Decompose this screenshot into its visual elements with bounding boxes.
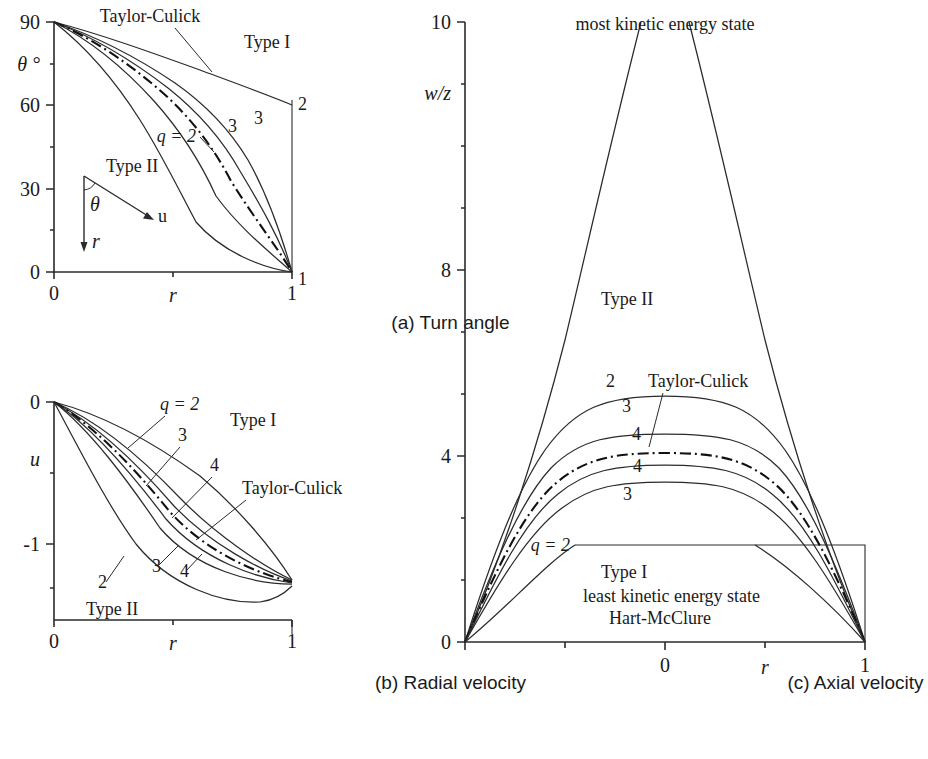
- panel-a-label-edge-1: 1: [298, 269, 307, 289]
- panel-b-label-type-1: Type I: [230, 410, 276, 430]
- panel-c-label-most-kinetic: most kinetic energy state: [575, 14, 754, 34]
- panel-a-label-3-upper: 3: [254, 108, 263, 128]
- panel-a-ylabel: θ °: [17, 53, 40, 75]
- panel-b-xtick-1: 1: [287, 630, 297, 652]
- panel-c-leader-tc: [649, 393, 663, 447]
- curve-taylor-culick: [54, 22, 292, 272]
- panel-a-xlabel: r: [169, 284, 177, 306]
- panel-b-label-q-eq-2: q = 2: [160, 394, 199, 414]
- panel-c-label-taylor-culick: Taylor-Culick: [648, 371, 748, 391]
- panel-b-label-type-2: Type II: [86, 599, 138, 619]
- inset-label-theta: θ: [90, 193, 100, 215]
- panel-c-label-q-eq-2: q = 2: [531, 535, 570, 555]
- inset-angle-arc: [84, 183, 95, 190]
- panel-a-label-3-lower: 3: [228, 116, 237, 136]
- panel-a-ytick-90: 90: [20, 11, 40, 33]
- curve-q2-type-2: [54, 22, 292, 272]
- panel-b-axes: [54, 402, 292, 620]
- panel-a-label-taylor-culick: Taylor-Culick: [100, 6, 200, 26]
- panel-c-label-peak-3: 3: [622, 396, 631, 416]
- panel-axial-velocity: 10 8 4 0 w/z 0 1 r most kinetic energy s…: [405, 0, 901, 712]
- panel-b-leader-q2: [128, 416, 165, 448]
- panel-a-label-edge-2: 2: [298, 94, 307, 114]
- panel-b-leader-4-top: [172, 477, 212, 518]
- panel-c-label-peak-2: 2: [606, 371, 615, 391]
- panel-a-xticks: [54, 272, 292, 279]
- inset-label-u: u: [158, 206, 167, 226]
- panel-b-xtick-0: 0: [49, 630, 59, 652]
- panel-c-ytick-0: 0: [441, 631, 451, 653]
- panel-a-leader-taylor-culick: [175, 28, 212, 72]
- inset-label-r: r: [92, 230, 100, 252]
- panel-a-ytick-0: 0: [30, 261, 40, 283]
- panel-b-ytick-minus1: -1: [23, 533, 40, 555]
- panel-b-ytick-0: 0: [30, 391, 40, 413]
- panel-c-ytick-10: 10: [431, 11, 451, 33]
- panel-a-yticks: [46, 22, 54, 272]
- panel-b-ylabel: u: [30, 448, 40, 470]
- panel-b-leader-2-low: [106, 556, 124, 582]
- panel-c-label-hart-mcclure: Hart-McClure: [609, 608, 711, 628]
- panel-turn-angle: 90 60 30 0 θ ° 0 1 r Taylor-Culick Type …: [0, 0, 400, 345]
- curve-c-type-2-right: [689, 22, 865, 642]
- panel-c-label-lower-4: 4: [633, 456, 642, 476]
- panel-a-ytick-60: 60: [20, 94, 40, 116]
- curve-q4-upper: [54, 22, 292, 272]
- panel-b-leader-3-low: [158, 546, 178, 566]
- panel-a-label-q-eq-2: q = 2: [157, 126, 196, 146]
- panel-b-label-4-top: 4: [210, 455, 219, 475]
- curve-b-2-type-2: [54, 402, 292, 602]
- panel-a-ytick-30: 30: [20, 178, 40, 200]
- panel-b-label-4-low: 4: [180, 561, 189, 581]
- panel-b-label-taylor-culick: Taylor-Culick: [242, 478, 342, 498]
- panel-c-label-type-1: Type I: [601, 562, 647, 582]
- panel-a-xtick-0: 0: [49, 282, 59, 304]
- caption-panel-c: (c) Axial velocity: [405, 672, 928, 694]
- panel-a-label-type-2: Type II: [106, 156, 158, 176]
- panel-b-label-3-low: 3: [152, 556, 161, 576]
- panel-c-ytick-4: 4: [441, 445, 451, 467]
- panel-b-label-3-top: 3: [178, 425, 187, 445]
- panel-b-label-2-low: 2: [98, 572, 107, 592]
- panel-c-ytick-8: 8: [441, 259, 451, 281]
- panel-b-xticks: [54, 620, 292, 627]
- panel-c-label-lower-3: 3: [623, 484, 632, 504]
- panel-c-label-least-kinetic: least kinetic energy state: [583, 586, 760, 606]
- panel-a-inset-vector-diagram: θ r u: [81, 176, 168, 252]
- curve-q3-lower: [54, 22, 292, 272]
- panel-c-xticks: [465, 642, 865, 650]
- panel-c-axes: [465, 22, 865, 642]
- panel-a-label-type-1: Type I: [244, 32, 290, 52]
- inset-r-arrow-head: [81, 242, 88, 252]
- panel-b-xlabel: r: [169, 632, 177, 654]
- panel-a-leader-q2: [200, 137, 214, 152]
- panel-a-axes: [54, 22, 292, 272]
- panel-radial-velocity: 0 -1 u 0 1 r q = 2 Type I 3 4 Taylor-Cul…: [0, 358, 400, 703]
- curve-q3-upper: [54, 22, 292, 272]
- panel-c-ylabel: w/z: [424, 82, 451, 104]
- panel-c-label-upper-4: 4: [632, 424, 641, 444]
- panel-c-yticks: [457, 22, 465, 642]
- panel-c-label-type-2: Type II: [601, 289, 653, 309]
- panel-b-yticks: [46, 402, 54, 588]
- panel-a-xtick-1: 1: [287, 282, 297, 304]
